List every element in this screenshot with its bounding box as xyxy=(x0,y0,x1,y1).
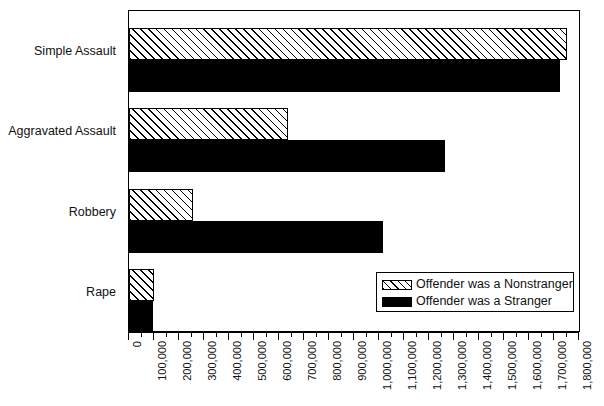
x-tick-major xyxy=(478,332,479,340)
x-tick-minor xyxy=(266,332,267,337)
x-axis-tick-labels: 0100,000200,000300,000400,000500,000600,… xyxy=(0,341,604,406)
x-tick-minor xyxy=(441,332,442,337)
x-tick-label: 500,000 xyxy=(253,341,264,381)
x-tick-minor xyxy=(541,332,542,337)
x-tick-minor xyxy=(466,332,467,337)
x-tick-major xyxy=(328,332,329,340)
x-tick-minor xyxy=(191,332,192,337)
x-tick-minor xyxy=(166,332,167,337)
legend-label-stranger: Offender was a Stranger xyxy=(416,295,552,308)
x-tick-minor xyxy=(216,332,217,337)
legend-item-stranger: Offender was a Stranger xyxy=(382,294,568,309)
x-tick-minor xyxy=(391,332,392,337)
x-tick-label: 800,000 xyxy=(328,341,339,381)
legend-swatch-nonstranger-icon xyxy=(382,280,412,290)
x-tick-label: 700,000 xyxy=(303,341,314,381)
bar-stranger-aggravated-assault xyxy=(129,140,445,172)
x-tick-major xyxy=(303,332,304,340)
bar-chart: Simple Assault Aggravated Assault Robber… xyxy=(0,0,604,406)
x-tick-major xyxy=(128,332,129,340)
x-tick-label: 1,700,000 xyxy=(553,341,564,390)
x-tick-label: 1,600,000 xyxy=(528,341,539,390)
x-tick-major xyxy=(203,332,204,340)
bar-nonstranger-robbery xyxy=(129,189,193,221)
x-tick-label: 0 xyxy=(128,341,139,347)
x-tick-major xyxy=(153,332,154,340)
category-label-simple-assault: Simple Assault xyxy=(0,45,116,58)
x-tick-minor xyxy=(416,332,417,337)
category-label-aggravated-assault: Aggravated Assault xyxy=(0,125,116,138)
x-tick-label: 1,000,000 xyxy=(378,341,389,390)
x-tick-major xyxy=(553,332,554,340)
x-tick-label: 1,100,000 xyxy=(403,341,414,390)
category-axis-labels: Simple Assault Aggravated Assault Robber… xyxy=(0,0,122,330)
x-tick-minor xyxy=(316,332,317,337)
x-tick-label: 900,000 xyxy=(353,341,364,381)
x-tick-major xyxy=(403,332,404,340)
legend: Offender was a Nonstranger Offender was … xyxy=(376,272,574,312)
legend-item-nonstranger: Offender was a Nonstranger xyxy=(382,277,568,292)
x-tick-label: 1,300,000 xyxy=(453,341,464,390)
x-tick-minor xyxy=(341,332,342,337)
bar-nonstranger-aggravated-assault xyxy=(129,108,288,140)
x-tick-minor xyxy=(141,332,142,337)
x-tick-label: 300,000 xyxy=(203,341,214,381)
x-tick-major xyxy=(578,332,579,340)
category-label-rape: Rape xyxy=(0,286,116,299)
x-tick-label: 1,200,000 xyxy=(428,341,439,390)
x-tick-major xyxy=(278,332,279,340)
x-tick-label: 400,000 xyxy=(228,341,239,381)
x-tick-minor xyxy=(566,332,567,337)
x-tick-major xyxy=(453,332,454,340)
x-tick-minor xyxy=(366,332,367,337)
x-tick-label: 100,000 xyxy=(153,341,164,381)
x-tick-minor xyxy=(516,332,517,337)
legend-swatch-stranger-icon xyxy=(382,297,412,307)
x-tick-major xyxy=(378,332,379,340)
bar-stranger-rape xyxy=(129,301,153,333)
x-tick-major xyxy=(353,332,354,340)
x-tick-major xyxy=(428,332,429,340)
x-tick-major xyxy=(253,332,254,340)
x-tick-minor xyxy=(491,332,492,337)
x-tick-major xyxy=(528,332,529,340)
x-tick-major xyxy=(178,332,179,340)
bar-stranger-robbery xyxy=(129,221,383,253)
x-tick-label: 1,400,000 xyxy=(478,341,489,390)
bar-nonstranger-rape xyxy=(129,269,154,301)
x-tick-minor xyxy=(291,332,292,337)
bar-stranger-simple-assault xyxy=(129,60,560,92)
legend-label-nonstranger: Offender was a Nonstranger xyxy=(416,278,573,291)
x-tick-label: 1,800,000 xyxy=(578,341,589,390)
x-tick-label: 1,500,000 xyxy=(503,341,514,390)
x-tick-major xyxy=(503,332,504,340)
bar-nonstranger-simple-assault xyxy=(129,28,567,60)
x-tick-major xyxy=(228,332,229,340)
x-tick-minor xyxy=(241,332,242,337)
x-tick-label: 600,000 xyxy=(278,341,289,381)
category-label-robbery: Robbery xyxy=(0,206,116,219)
x-tick-label: 200,000 xyxy=(178,341,189,381)
